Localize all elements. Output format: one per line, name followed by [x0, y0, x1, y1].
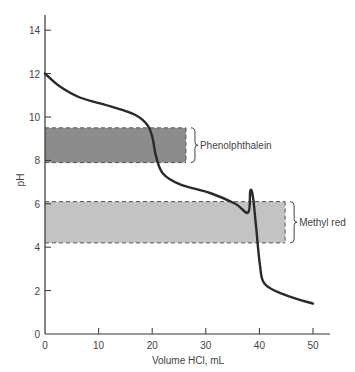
y-tick-label: 6 — [34, 199, 40, 210]
x-tick-label: 20 — [147, 340, 159, 351]
y-tick-label: 2 — [34, 286, 40, 297]
x-axis-label: Volume HCl, mL — [152, 355, 225, 366]
axes — [45, 15, 330, 334]
x-tick-label: 10 — [93, 340, 105, 351]
x-tick-label: 0 — [42, 340, 48, 351]
brace-icon — [290, 202, 297, 243]
band-phenolphthalein — [45, 128, 186, 163]
titration-curve — [45, 74, 313, 304]
y-tick-label: 0 — [34, 329, 40, 340]
ticks: 0102030405002468101214 — [29, 25, 319, 351]
x-tick-label: 30 — [200, 340, 212, 351]
y-tick-label: 8 — [34, 155, 40, 166]
y-tick-label: 14 — [29, 25, 41, 36]
phenolphthalein-label: Phenolphthalein — [200, 140, 272, 151]
methyl-red-label: Methyl red — [299, 217, 346, 228]
brace-icon — [191, 128, 198, 163]
y-tick-label: 4 — [34, 242, 40, 253]
y-tick-label: 10 — [29, 112, 41, 123]
titration-chart: 0102030405002468101214 Volume HCl, mL pH… — [0, 0, 355, 372]
x-tick-label: 50 — [307, 340, 319, 351]
x-tick-label: 40 — [254, 340, 266, 351]
y-axis-label: pH — [15, 174, 26, 187]
y-tick-label: 12 — [29, 69, 41, 80]
